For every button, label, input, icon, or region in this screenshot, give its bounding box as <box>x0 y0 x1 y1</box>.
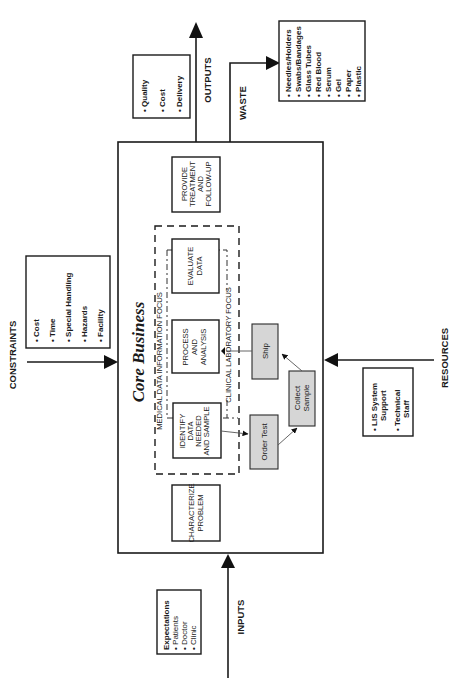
inputs-heading: Expectations <box>162 600 171 650</box>
waste-item: • Needles/Holders <box>284 29 293 97</box>
identify-to-order-connector <box>221 431 248 434</box>
outputs-label: OUTPUTS <box>202 57 213 102</box>
resources-item-cont: Support <box>379 390 388 421</box>
resources-item-cont: Staff <box>402 400 411 418</box>
waste-label: WASTE <box>237 86 248 120</box>
waste-item: • Gel <box>334 79 343 97</box>
step-label: AND <box>190 338 199 355</box>
step-label: CHARACTERIZE <box>187 483 196 542</box>
lab-step-ship: Ship <box>252 324 278 379</box>
outputs-item: • Delivery <box>175 75 184 112</box>
resources-item: • Technical <box>393 390 402 431</box>
step-characterize-problem: CHARACTERIZE PROBLEM <box>172 483 220 542</box>
step-process-analysis: PROCESS AND ANALYSIS <box>172 320 219 373</box>
outputs-item: • Quality <box>140 79 149 112</box>
outputs-arrowhead-icon <box>189 22 203 38</box>
outputs-item: • Cost <box>158 89 167 112</box>
waste-item: • Glass Tubes <box>304 44 313 97</box>
outputs-flow: OUTPUTS <box>189 22 213 142</box>
clinical-focus-label: CLINICAL LABORATORY FOCUS <box>224 287 233 403</box>
step-identify-data: IDENTIFY DATA NEEDED AND SAMPLE <box>173 403 221 458</box>
resources-box: • LIS System Support • Technical Staff <box>363 368 413 436</box>
step-label: DATA <box>195 256 204 276</box>
waste-item: • Plastic <box>354 66 363 97</box>
resources-arrowhead-icon <box>324 353 338 367</box>
resources-label: RESOURCES <box>439 328 450 388</box>
step-evaluate-data: EVALUATE DATA <box>172 239 219 293</box>
waste-item: • Serum <box>324 67 333 97</box>
lab-step-label: Sample <box>302 384 311 412</box>
step-label: EVALUATE <box>186 247 195 286</box>
waste-box: • Needles/Holders • Swabs/Bandages • Gla… <box>279 21 365 101</box>
inputs-item: • Clinic <box>189 625 198 650</box>
medical-focus-label: MEDICAL DATA INFORMATION FOCUS <box>155 292 164 430</box>
lab-step-order-test: Order Test <box>250 415 278 469</box>
lab-step-label: Ship <box>261 342 270 359</box>
inputs-arrowhead-icon <box>221 554 235 568</box>
inputs-flow: INPUTS <box>221 554 246 678</box>
waste-arrowhead-icon <box>266 56 280 70</box>
constraints-item: • Cost <box>32 319 41 342</box>
ship-to-process-arrowhead-icon <box>221 347 225 355</box>
inputs-box: Expectations • Patients • Doctor • Clini… <box>157 590 201 654</box>
outputs-box: • Quality • Cost • Delivery <box>133 55 190 118</box>
collect-to-ship-connector <box>282 354 302 371</box>
step-label: PROCESS <box>181 328 190 365</box>
step-label: FOLLOW-UP <box>204 161 213 206</box>
step-label: ANALYSIS <box>199 329 208 366</box>
waste-item: • Paper <box>344 70 353 97</box>
constraints-arrowhead-icon <box>104 355 118 369</box>
resources-item: • LIS System <box>370 383 379 431</box>
waste-flow: WASTE <box>230 56 280 142</box>
constraints-label: CONSTRAINTS <box>7 321 18 390</box>
step-label: AND SAMPLE <box>202 407 211 456</box>
waste-item: • Red Blood <box>314 52 323 97</box>
constraints-item: • Hazards <box>80 305 89 342</box>
inputs-item: • Doctor <box>180 621 189 650</box>
constraints-item: • Special Handling <box>64 272 73 342</box>
waste-item: • Swabs/Bandages <box>294 26 303 97</box>
step-label: PROBLEM <box>196 494 205 531</box>
lab-step-collect-sample: Collect Sample <box>289 371 315 426</box>
core-business-title: Core Business <box>129 301 148 402</box>
sipoc-diagram: Core Business OUTPUTS • Quality • Cost •… <box>0 0 459 685</box>
constraints-item: • Facility <box>96 309 105 342</box>
inputs-label: INPUTS <box>235 600 246 635</box>
inputs-item: • Patients <box>171 616 180 650</box>
lab-step-label: Collect <box>293 385 302 410</box>
constraints-box: • Cost • Time • Special Handling • Hazar… <box>26 256 110 348</box>
constraints-item: • Time <box>48 318 57 342</box>
lab-step-label: Order Test <box>260 423 269 461</box>
step-provide-treatment: PROVIDE TREATMENT AND FOLLOW-UP <box>172 157 220 212</box>
order-to-collect-connector <box>278 428 297 445</box>
